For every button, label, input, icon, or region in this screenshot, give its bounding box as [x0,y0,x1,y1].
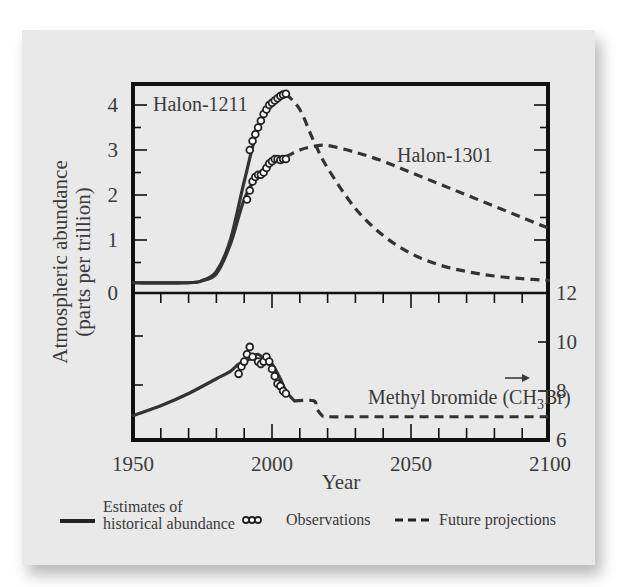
upper-y-tick-0: 0 [108,281,119,305]
methyl-bromide-ch3br--observation-point [246,344,253,351]
legend-projections-label: Future projections [439,511,556,529]
halon-1211-observation-point [255,124,262,131]
methyl-bromide-ch3br--observation-point [283,390,290,397]
upper-y-tick-1: 1 [108,228,119,252]
halon-1211-observation-point [246,147,253,154]
legend: Estimates of historical abundance Observ… [60,498,556,532]
y-axis-title-line1: Atmospheric abundance [48,160,72,364]
y-axis-title: Atmospheric abundance (parts per trillio… [48,160,95,364]
arrow-right-icon [505,374,530,382]
methyl-bromide-ch3br--observation-point [271,373,278,380]
halon-1211-projection-line [286,94,550,281]
methyl-bromide-ch3br--observation-point [266,358,273,365]
halon-1301-observation-point [244,196,251,203]
label-methyl-prefix: Methyl bromide (CH [368,386,537,409]
label-halon-1301: Halon-1301 [397,144,493,166]
lower-y-tick-6: 6 [556,428,567,452]
lower-y-tick-12: 12 [556,281,577,305]
legend-historical-line1: Estimates of [103,498,183,515]
x-tick-1950: 1950 [112,452,154,476]
lower-y-tick-10: 10 [556,330,577,354]
methyl-bromide-ch3br--observation-point [235,370,242,377]
legend-historical-line2: historical abundance [103,515,235,532]
upper-y-tick-4: 4 [108,93,119,117]
label-methyl-suffix: Br) [544,386,571,409]
upper-y-tick-3: 3 [108,138,119,162]
chart-canvas: 4 3 2 1 0 12 10 8 6 1950 2000 2050 2100 … [0,0,627,587]
legend-observations-label: Observations [286,511,370,528]
halon-1211-observation-point [257,117,264,124]
y-axis-title-line2: (parts per trillion) [71,187,95,336]
label-methyl-subscript: 3 [537,397,544,412]
halon-1211-observation-point [283,90,290,97]
halon-1301-observation-point [283,156,290,163]
label-methyl-bromide: Methyl bromide (CH3Br) [368,386,571,412]
methyl-bromide-ch3br--observation-point [241,358,248,365]
methyl-bromide-ch3br--observation-point [269,366,276,373]
x-tick-2050: 2050 [390,452,432,476]
x-tick-2100: 2100 [529,452,571,476]
halon-1211-observation-point [249,138,256,145]
halon-1211-observation-point [252,131,259,138]
data-series [133,90,550,416]
halon-1301-observation-point [246,187,253,194]
x-axis-title: Year [322,470,361,494]
x-tick-2000: 2000 [251,452,293,476]
upper-y-tick-2: 2 [108,183,119,207]
label-halon-1211: Halon-1211 [153,93,248,115]
legend-observations-icon [243,517,261,523]
